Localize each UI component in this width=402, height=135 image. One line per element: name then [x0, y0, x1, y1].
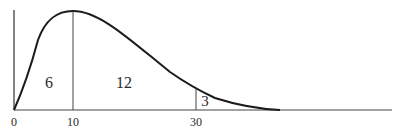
tick-label-10: 10 — [67, 115, 79, 129]
region-label-right: 3 — [201, 93, 209, 109]
tick-label-30: 30 — [190, 115, 202, 129]
region-label-left: 6 — [45, 74, 53, 91]
density-curve — [14, 11, 280, 110]
tick-label-0: 0 — [11, 115, 17, 129]
density-diagram: 6 12 3 0 10 30 — [0, 0, 402, 135]
region-label-middle: 12 — [116, 74, 132, 91]
